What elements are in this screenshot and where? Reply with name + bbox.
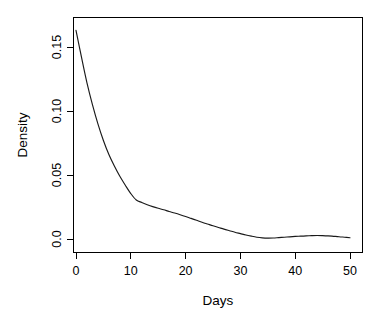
x-axis-title: Days: [203, 293, 234, 308]
y-tick-label: 0.0: [50, 230, 64, 247]
x-tick-label: 0: [73, 264, 80, 278]
y-axis-tick-labels: 0.00.050.100.15: [50, 35, 64, 248]
y-axis-ticks: [67, 47, 74, 239]
x-axis-tick-labels: 01020304050: [73, 264, 357, 278]
x-tick-label: 40: [288, 264, 302, 278]
x-tick-label: 10: [124, 264, 138, 278]
x-axis-ticks: [76, 253, 350, 260]
y-tick-label: 0.10: [50, 99, 64, 123]
x-tick-label: 50: [343, 264, 357, 278]
density-plot-figure: 01020304050 0.00.050.100.15 Days Density: [0, 0, 382, 326]
chart-canvas: 01020304050 0.00.050.100.15 Days Density: [0, 0, 382, 326]
density-curve-series: [76, 30, 350, 238]
plot-box-frame: [74, 18, 363, 253]
y-tick-label: 0.15: [50, 35, 64, 59]
y-tick-label: 0.05: [50, 163, 64, 187]
x-tick-label: 30: [233, 264, 247, 278]
density-curve-path: [76, 30, 350, 238]
x-tick-label: 20: [179, 264, 193, 278]
y-axis-title: Density: [15, 112, 30, 157]
